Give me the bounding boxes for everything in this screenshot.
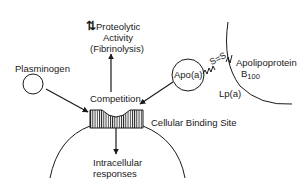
plasminogen-circle [23,74,43,94]
binding-site-block [90,110,143,128]
proteolytic-label-line3: (Fibrinolysis) [90,43,144,54]
proteolytic-label-line1: Proteolytic [96,21,140,32]
intracellular-label-line1: Intracellular [93,157,142,168]
plasminogen-label: Plasminogen [15,63,70,74]
apoa-label: Apo(a) [174,69,203,80]
updown-arrows-icon: ⇅ [86,21,96,32]
proteolytic-label-line2: Activity [103,32,133,43]
apob-label-line1: Apolipoprotein [236,57,297,68]
apob-subscript: 100 [247,72,260,81]
plasminogen-arrow [46,89,88,112]
diagram-canvas [0,0,307,191]
competition-label: Competition [90,93,141,104]
lpa-label: Lp(a) [219,88,241,99]
binding-site-label: Cellular Binding Site [151,117,237,128]
apoa-arrow [140,82,173,104]
apob-label-line2: B100 [241,68,260,80]
intracellular-label-line2: responses [93,168,137,179]
